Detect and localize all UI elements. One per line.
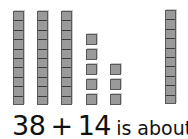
is-about-label: is about — [116, 117, 188, 139]
ones-cube — [86, 79, 97, 90]
ones-cube — [86, 49, 97, 60]
tens-rod-3 — [61, 11, 72, 105]
ones-cube — [86, 64, 97, 75]
tens-rod-right — [165, 10, 176, 104]
ones-cube — [86, 34, 97, 45]
addend-1: 38 — [12, 110, 45, 139]
ones-cube — [110, 64, 121, 75]
ones-cube — [110, 79, 121, 90]
tens-rod-2 — [37, 11, 48, 105]
addend-2: 14 — [78, 110, 111, 139]
ones-cube — [86, 94, 97, 105]
ones-cube — [110, 94, 121, 105]
tens-rod-1 — [13, 11, 24, 105]
plus-sign: + — [50, 110, 72, 139]
addition-expression: 38 + 14 is about — [12, 110, 188, 139]
